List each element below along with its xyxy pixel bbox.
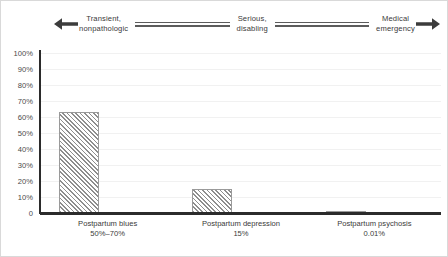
y-axis-line: [39, 50, 41, 214]
gridline: [41, 149, 441, 150]
y-axis-tick-label: 20%: [3, 177, 33, 186]
gridline: [41, 117, 441, 118]
bar-postpartum-depression: [192, 189, 232, 213]
y-axis-tick-label: 90%: [3, 65, 33, 74]
y-axis-tick-label: 40%: [3, 145, 33, 154]
y-axis-tick-label: 70%: [3, 97, 33, 106]
gridline: [41, 85, 441, 86]
spectrum-connector-2: [275, 22, 369, 27]
y-axis-tick-label: 0: [3, 209, 33, 218]
spectrum-connector-1: [135, 22, 229, 27]
y-axis-tick-label: 10%: [3, 193, 33, 202]
gridline: [41, 133, 441, 134]
y-axis-tick-label: 60%: [3, 113, 33, 122]
y-axis-tick-label: 30%: [3, 161, 33, 170]
x-axis-category-label: Postpartum psychosis 0.01%: [308, 219, 441, 240]
figure-container: Transient, nonpathologic Serious, disabl…: [0, 0, 448, 257]
gridline: [41, 165, 441, 166]
severity-spectrum: Transient, nonpathologic Serious, disabl…: [53, 10, 441, 38]
y-axis-tick-label: 50%: [3, 129, 33, 138]
spectrum-label-serious: Serious, disabling: [237, 14, 268, 34]
gridline: [41, 101, 441, 102]
arrow-right-icon: [415, 15, 441, 33]
gridline: [41, 69, 441, 70]
plot-area: [41, 53, 441, 213]
spectrum-label-emergency: Medical emergency: [376, 14, 415, 34]
y-axis-tick-label: 80%: [3, 81, 33, 90]
bar-postpartum-blues: [59, 112, 99, 213]
gridline: [41, 197, 441, 198]
gridline: [41, 53, 441, 54]
arrow-left-icon: [53, 15, 79, 33]
spectrum-label-transient: Transient, nonpathologic: [79, 14, 128, 34]
x-axis-category-label: Postpartum depression 15%: [174, 219, 307, 240]
x-axis-line: [40, 212, 441, 214]
y-axis-tick-label: 100%: [3, 49, 33, 58]
x-axis-category-label: Postpartum blues 50%–70%: [41, 219, 174, 240]
gridline: [41, 181, 441, 182]
